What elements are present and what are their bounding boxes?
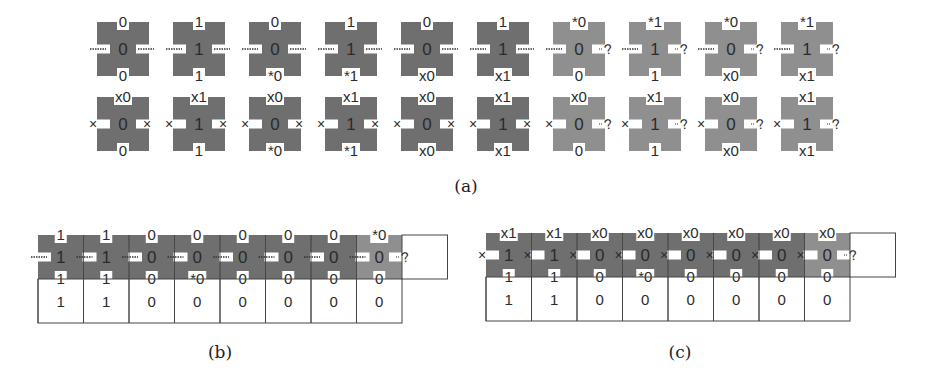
left-x-glue-icon: × xyxy=(796,247,804,263)
tile-center-label: 0 xyxy=(284,248,293,267)
top-glue-label: x1 xyxy=(501,224,517,241)
tile: x1*11×× xyxy=(317,88,379,159)
tile-center-label: 0 xyxy=(732,246,741,265)
top-glue-label: *0 xyxy=(572,13,586,30)
top-glue-label: x1 xyxy=(191,88,207,105)
tile-center-label: 1 xyxy=(498,40,507,59)
left-x-glue-icon: × xyxy=(569,247,577,263)
left-notch xyxy=(628,120,642,129)
seed-cell-value: 0 xyxy=(330,293,338,310)
top-glue-label: 0 xyxy=(148,226,156,243)
tile: x0x00×× xyxy=(393,88,455,159)
bottom-glue-label: x1 xyxy=(495,142,511,159)
top-glue-label: 0 xyxy=(284,226,292,243)
tile: x000×? xyxy=(545,88,614,159)
seed-cell-value: 0 xyxy=(687,291,695,308)
bottom-glue-label: *1 xyxy=(344,142,358,159)
top-glue-label: x0 xyxy=(723,88,739,105)
top-glue-label: x1 xyxy=(343,88,359,105)
bottom-glue-label: 0 xyxy=(575,67,583,84)
top-glue-label: 0 xyxy=(423,13,431,30)
tile-center-label: 0 xyxy=(118,40,127,59)
tile-center-label: 0 xyxy=(595,246,604,265)
top-glue-label: x1 xyxy=(546,224,562,241)
top-glue-label: x1 xyxy=(647,88,663,105)
tile: x0*00×× xyxy=(241,88,303,159)
tile-center-label: 1 xyxy=(56,248,65,267)
left-notch xyxy=(667,251,681,260)
tile-center-label: 0 xyxy=(777,246,786,265)
tile: *1x11? xyxy=(774,13,842,84)
left-notch xyxy=(531,251,545,260)
bottom-glue-label: x0 xyxy=(723,67,739,84)
tile-center-label: 0 xyxy=(574,40,583,59)
assembly-tile: 000 xyxy=(213,226,266,287)
tile: x111×× xyxy=(165,88,227,159)
top-glue-label: *0 xyxy=(372,226,386,243)
bottom-glue-label: 1 xyxy=(651,67,659,84)
top-glue-label: x0 xyxy=(683,224,699,241)
bottom-glue-label: *0 xyxy=(268,67,282,84)
bottom-glue-label: *1 xyxy=(344,67,358,84)
left-x-glue-icon: × xyxy=(478,247,486,263)
top-glue-label: x0 xyxy=(774,224,790,241)
left-x-glue-icon: × xyxy=(614,247,622,263)
top-glue-label: x1 xyxy=(799,88,815,105)
bottom-glue-label: x1 xyxy=(495,67,511,84)
bottom-glue-label: *0 xyxy=(268,142,282,159)
panel-b-caption: (b) xyxy=(208,342,232,362)
assembly-tile: 111 xyxy=(77,226,130,287)
tile-center-label: 0 xyxy=(147,248,156,267)
tile-center-label: 1 xyxy=(194,115,203,134)
right-x-glue-icon: × xyxy=(143,116,151,132)
top-glue-label: 0 xyxy=(271,13,279,30)
left-notch xyxy=(400,120,414,129)
left-x-glue-icon: × xyxy=(393,116,401,132)
top-glue-label: x0 xyxy=(571,88,587,105)
left-x-glue-icon: × xyxy=(469,116,477,132)
panel-a-tile-set: 0001110*001*110x001x11*000?*111?*0x00?*1… xyxy=(89,13,842,159)
tile-center-label: 0 xyxy=(375,248,384,267)
assembly-tile: 111 xyxy=(31,226,84,287)
top-glue-label: 1 xyxy=(499,13,507,30)
bottom-glue-label: x1 xyxy=(799,67,815,84)
top-glue-label: x0 xyxy=(637,224,653,241)
left-x-glue-icon: × xyxy=(773,116,781,132)
top-glue-label: *1 xyxy=(800,13,814,30)
top-glue-label: 0 xyxy=(239,226,247,243)
assembly-tile: 0*00 xyxy=(168,226,221,287)
left-notch xyxy=(172,120,186,129)
left-notch xyxy=(704,120,718,129)
left-x-glue-icon: × xyxy=(523,247,531,263)
seed-cell-value: 0 xyxy=(284,293,292,310)
left-x-glue-icon: × xyxy=(705,247,713,263)
tile-center-label: 1 xyxy=(550,246,559,265)
panel-b-assembly: 1111110000*00000000000*000?11000000 xyxy=(31,226,448,323)
tile-center-label: 0 xyxy=(329,248,338,267)
left-x-glue-icon: × xyxy=(241,116,249,132)
tile-center-label: 1 xyxy=(102,248,111,267)
tile-center-label: 0 xyxy=(193,248,202,267)
tile-center-label: 0 xyxy=(641,246,650,265)
bottom-glue-label: 0 xyxy=(119,67,127,84)
seed-cell-value: 0 xyxy=(641,291,649,308)
tile-center-label: 1 xyxy=(650,115,659,134)
seed-cell-value: 0 xyxy=(375,293,383,310)
tile-center-label: 1 xyxy=(498,115,507,134)
left-notch xyxy=(552,120,566,129)
assembly-tile: 000 xyxy=(259,226,312,287)
tile-center-label: 1 xyxy=(346,40,355,59)
tile: x1x11×× xyxy=(469,88,531,159)
assembly-tile: x000×? xyxy=(796,224,858,285)
assembly-tile: *000? xyxy=(350,226,411,287)
left-notch xyxy=(476,120,490,129)
top-glue-label: 1 xyxy=(102,226,110,243)
tile: x0x00×? xyxy=(697,88,766,159)
panel-c-assembly: x111×x111×x000×x0*00×x000×x000×x000×x000… xyxy=(478,224,896,321)
panel-a-caption: (a) xyxy=(454,176,477,196)
tile: 1x11 xyxy=(470,13,534,84)
tile: *111? xyxy=(622,13,690,84)
top-glue-label: x0 xyxy=(115,88,131,105)
tile-center-label: 0 xyxy=(726,115,735,134)
top-glue-label: 0 xyxy=(193,226,201,243)
